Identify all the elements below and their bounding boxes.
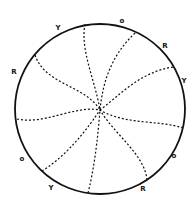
spiral-line [100,67,173,110]
spiral-line [35,55,100,110]
spiral-line [42,110,100,171]
color-label: R [11,68,17,76]
spiral-lines [17,24,183,193]
color-label: Y [54,24,61,32]
color-label: Y [47,184,54,192]
spiral-line [100,33,135,110]
spiral-line [100,110,183,128]
spiral-line [88,110,100,193]
color-label: R [140,185,146,193]
color-label: o [120,17,125,25]
spiral-line [17,109,100,120]
spiral-line [100,110,147,180]
color-label: R [162,42,168,50]
spiral-circle-diagram: YoRYRooYR [0,0,196,203]
color-label: o [20,155,25,163]
color-label: Y [180,77,187,85]
color-label: o [172,152,177,160]
spiral-line [84,24,100,110]
